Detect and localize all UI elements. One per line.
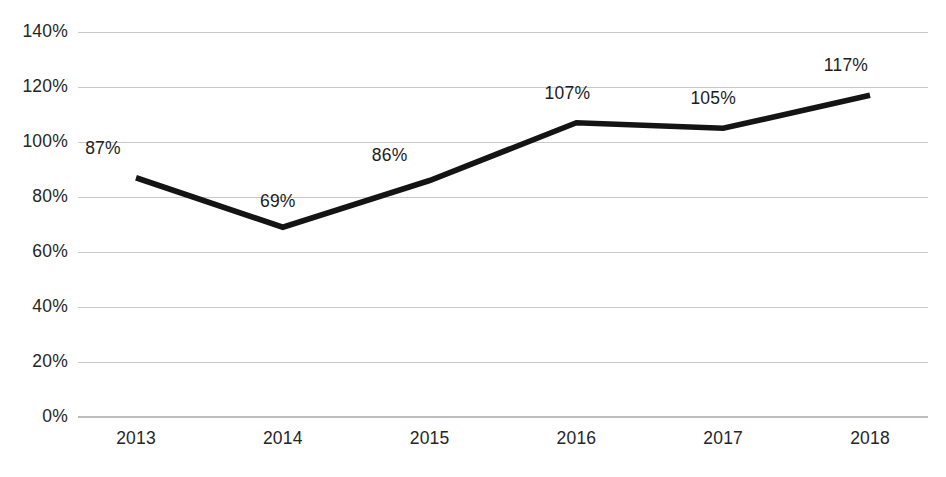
- line-chart: 0%20%40%60%80%100%120%140% 2013201420152…: [0, 0, 946, 477]
- y-axis-tick-label: 60%: [32, 243, 68, 261]
- chart-plot-area: [0, 0, 946, 477]
- y-axis-tick-label: 120%: [22, 78, 68, 96]
- x-axis-tick-label: 2016: [526, 430, 626, 448]
- data-point-label: 69%: [238, 193, 318, 211]
- x-axis-tick-label: 2018: [820, 430, 920, 448]
- data-point-label: 87%: [63, 140, 143, 158]
- y-axis-tick-label: 20%: [32, 353, 68, 371]
- x-axis-tick-label: 2014: [233, 430, 333, 448]
- data-point-label: 107%: [527, 85, 607, 103]
- x-axis-tick-label: 2015: [380, 430, 480, 448]
- y-axis-tick-label: 80%: [32, 188, 68, 206]
- x-axis-tick-label: 2017: [673, 430, 773, 448]
- data-point-label: 86%: [350, 147, 430, 165]
- y-axis-tick-label: 0%: [42, 408, 68, 426]
- y-axis-tick-label: 140%: [22, 23, 68, 41]
- gridlines: [78, 32, 928, 362]
- y-axis-tick-label: 100%: [22, 133, 68, 151]
- y-axis-tick-label: 40%: [32, 298, 68, 316]
- x-axis-tick-label: 2013: [86, 430, 186, 448]
- data-point-label: 105%: [673, 90, 753, 108]
- data-point-label: 117%: [806, 57, 886, 75]
